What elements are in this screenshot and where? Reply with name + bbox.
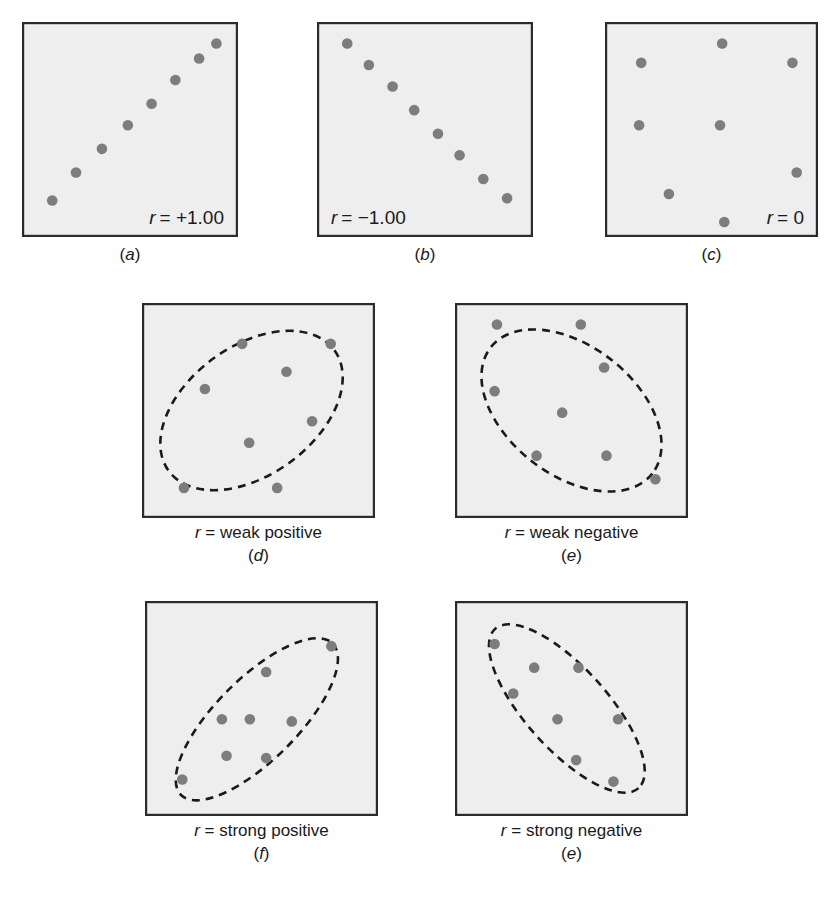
data-point [787,58,798,69]
data-point [281,367,292,378]
panel-description-f: r = strong positive [145,821,378,842]
panel-d: r = weak positive(d) [142,303,375,566]
data-point [608,776,619,787]
panel-description-e: r = weak negative [455,523,688,544]
data-point [245,714,256,725]
panel-description-g: r = strong negative [455,821,688,842]
r-annotation-b: r= −1.00 [331,207,406,228]
r-description-value: = weak negative [510,523,638,542]
data-point [387,81,398,92]
data-point [47,195,58,206]
scatter-box-a: r= +1.00 [22,22,238,237]
data-point [211,38,222,49]
scatter-box-e [455,303,688,518]
panel-letter-b: (b) [317,245,533,266]
data-point [601,450,612,461]
panel-frame [456,602,687,815]
r-annotation-text: r= +1.00 [149,207,224,228]
data-point [502,193,513,204]
data-point [146,98,157,109]
data-point [573,662,584,673]
data-point [307,416,318,427]
panel-letter-g: (e) [455,844,688,865]
paren-close: ) [716,245,722,264]
data-point [179,483,190,494]
data-point [364,60,375,71]
data-point [557,407,568,418]
panel-letter-glyph: e [567,844,576,863]
panel-f: r = strong positive(f) [145,601,378,864]
data-point [719,217,730,228]
panel-letter-glyph: b [420,245,429,264]
panel-letter-a: (a) [22,245,238,266]
data-point [326,641,337,652]
data-point [261,667,272,678]
panel-g: r = strong negative(e) [455,601,688,864]
panel-e: r = weak negative(e) [455,303,688,566]
data-point [194,53,205,64]
r-annotation-text: r= −1.00 [331,207,406,228]
paren-close: ) [264,844,270,863]
data-point [508,688,519,699]
correlation-scatterplot-figure: r= +1.00(a)r= −1.00(b)r= 0(c)r = weak po… [0,0,840,898]
data-point [237,339,248,350]
scatter-box-c: r= 0 [605,22,818,237]
panel-letter-glyph: e [567,546,576,565]
data-point [221,751,232,762]
data-point [261,753,272,764]
paren-close: ) [576,546,582,565]
scatter-box-d [142,303,375,518]
panel-letter-e: (e) [455,546,688,567]
data-point [489,386,500,397]
panel-description-d: r = weak positive [142,523,375,544]
data-point [664,189,675,200]
data-point [200,384,211,395]
data-point [454,150,465,161]
data-point [478,174,489,185]
r-description-value: = weak positive [201,523,322,542]
data-point [552,714,563,725]
data-point [97,144,108,155]
data-point [650,474,661,485]
data-point [170,75,181,86]
data-point [272,483,283,494]
data-point [286,716,297,727]
data-point [71,167,82,178]
r-annotation-text: r= 0 [767,207,804,228]
panel-letter-f: (f) [145,844,378,865]
panel-letter-d: (d) [142,546,375,567]
data-point [571,755,582,766]
data-point [576,319,587,330]
data-point [791,167,802,178]
scatter-box-f [145,601,378,816]
data-point [409,105,420,116]
data-point [636,58,647,69]
paren-close: ) [263,546,269,565]
data-point [177,774,188,785]
paren-close: ) [135,245,141,264]
r-annotation-a: r= +1.00 [149,207,224,228]
panel-b: r= −1.00(b) [317,22,533,266]
paren-close: ) [576,844,582,863]
data-point [342,38,353,49]
scatter-box-g [455,601,688,816]
data-point [531,450,542,461]
r-description-value: = strong positive [200,821,329,840]
panel-letter-c: (c) [605,245,818,266]
data-point [717,38,728,49]
paren-close: ) [430,245,436,264]
panel-letter-glyph: c [707,245,716,264]
data-point [489,639,500,650]
data-point [123,120,134,131]
panel-a: r= +1.00(a) [22,22,238,266]
data-point [715,120,726,131]
r-description-value: = strong negative [507,821,643,840]
panel-c: r= 0(c) [605,22,818,266]
panel-letter-glyph: d [254,546,263,565]
data-point [433,129,444,140]
data-point [492,319,503,330]
data-point [244,437,255,448]
panel-frame [318,23,532,236]
panel-letter-glyph: a [125,245,134,264]
data-point [599,362,610,373]
